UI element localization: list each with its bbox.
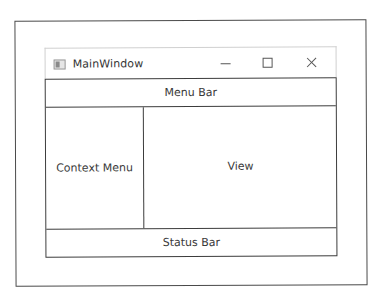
main-window: MainWindow Menu Bar Context Menu View bbox=[45, 46, 338, 257]
window-content: Menu Bar Context Menu View Status Bar bbox=[45, 77, 338, 257]
title-bar[interactable]: MainWindow bbox=[45, 46, 337, 78]
maximize-button[interactable] bbox=[253, 52, 283, 74]
window-title: MainWindow bbox=[73, 57, 144, 70]
context-menu-label: Context Menu bbox=[56, 161, 133, 174]
menu-bar-region: Menu Bar bbox=[46, 78, 336, 107]
maximize-icon bbox=[262, 57, 274, 69]
minimize-icon bbox=[220, 57, 232, 69]
menu-bar-label: Menu Bar bbox=[164, 86, 217, 99]
close-button[interactable] bbox=[297, 51, 327, 73]
app-window-icon bbox=[54, 60, 66, 70]
status-bar-region: Status Bar bbox=[46, 227, 336, 256]
view-label: View bbox=[227, 160, 253, 173]
minimize-button[interactable] bbox=[211, 52, 241, 74]
close-icon bbox=[306, 56, 318, 68]
context-menu-region: Context Menu bbox=[46, 107, 145, 228]
status-bar-label: Status Bar bbox=[163, 236, 220, 249]
view-region: View bbox=[145, 106, 337, 228]
